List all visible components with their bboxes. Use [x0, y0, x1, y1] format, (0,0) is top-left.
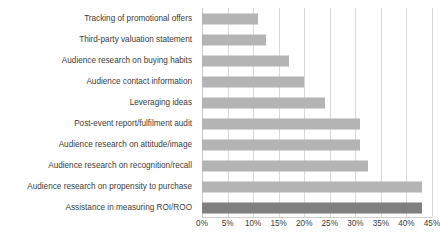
value-tick-label: 30% — [347, 220, 363, 228]
bar-row — [202, 92, 432, 113]
axis-baseline — [202, 217, 432, 218]
category-label: Leveraging ideas — [130, 98, 192, 106]
bar — [202, 118, 360, 129]
value-tick-label: 5% — [222, 220, 234, 228]
category-label: Audience contact information — [86, 77, 192, 85]
bar — [202, 97, 325, 108]
value-tick-label: 40% — [398, 220, 414, 228]
bar-row — [202, 176, 432, 197]
bar-chart: Tracking of promotional offersThird-part… — [0, 0, 440, 243]
category-label: Assistance in measuring ROI/ROO — [66, 203, 193, 211]
value-tick-label: 45% — [424, 220, 440, 228]
category-label: Post-event report/fulfilment audit — [74, 119, 192, 127]
gridline — [432, 8, 433, 218]
bar — [202, 202, 422, 213]
bar-row — [202, 8, 432, 29]
category-label: Audience research on attitude/image — [59, 140, 192, 148]
category-label: Audience research on propensity to purch… — [27, 182, 192, 190]
bar — [202, 139, 360, 150]
bar-row — [202, 50, 432, 71]
plot-area — [202, 8, 432, 218]
bar-row — [202, 155, 432, 176]
bar — [202, 160, 368, 171]
value-tick-label: 25% — [322, 220, 338, 228]
category-label: Audience research on recognition/recall — [48, 161, 192, 169]
bar-row — [202, 71, 432, 92]
value-axis-labels: 0%5%10%15%20%25%30%35%40%45% — [202, 220, 432, 234]
value-tick-label: 15% — [270, 220, 286, 228]
bar-row — [202, 113, 432, 134]
category-label: Third-party valuation statement — [79, 35, 192, 43]
bar — [202, 55, 289, 66]
value-tick-label: 10% — [245, 220, 261, 228]
bar-row — [202, 29, 432, 50]
category-label: Audience research on buying habits — [62, 56, 192, 64]
value-tick-label: 20% — [296, 220, 312, 228]
bar — [202, 34, 266, 45]
category-label: Tracking of promotional offers — [84, 14, 192, 22]
bar — [202, 181, 422, 192]
value-tick-label: 35% — [373, 220, 389, 228]
bar-row — [202, 197, 432, 218]
bar — [202, 76, 304, 87]
category-axis-labels: Tracking of promotional offersThird-part… — [0, 8, 198, 218]
value-tick-label: 0% — [196, 220, 208, 228]
bar-row — [202, 134, 432, 155]
bar-series — [202, 8, 432, 218]
bar — [202, 13, 258, 24]
